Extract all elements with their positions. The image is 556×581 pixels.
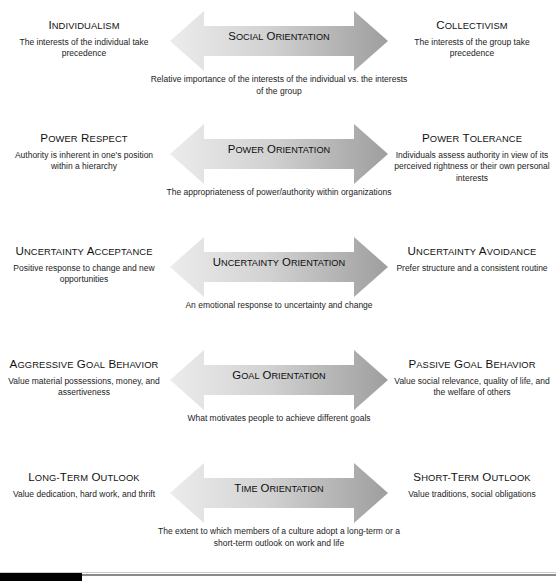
left-pole-description: The interests of the individual take pre…	[0, 37, 168, 60]
dimension-row: AGGRESSIVE GOAL BEHAVIORValue material p…	[0, 339, 556, 452]
left-pole: UNCERTAINTY ACCEPTANCEPositive response …	[0, 244, 168, 286]
right-pole: SHORT-TERM OUTLOOKValue traditions, soci…	[388, 470, 556, 500]
right-pole: COLLECTIVISMThe interests of the group t…	[388, 18, 556, 60]
left-pole-title: POWER RESPECT	[0, 131, 168, 146]
left-pole-title: UNCERTAINTY ACCEPTANCE	[0, 244, 168, 259]
right-pole: PASSIVE GOAL BEHAVIORValue social releva…	[388, 357, 556, 399]
dimension-description: The appropriateness of power/authority w…	[148, 187, 410, 199]
right-pole-description: Individuals assess authority in view of …	[388, 150, 556, 184]
left-pole-title: AGGRESSIVE GOAL BEHAVIOR	[0, 357, 168, 372]
dimension-description: What motivates people to achieve differe…	[148, 413, 410, 425]
left-pole-title: LONG-TERM OUTLOOK	[0, 470, 168, 485]
double-headed-arrow-icon	[168, 232, 390, 302]
dimension-row: LONG-TERM OUTLOOKValue dedication, hard …	[0, 452, 556, 565]
double-headed-arrow-icon	[168, 119, 390, 189]
dimension-description: The extent to which members of a culture…	[148, 526, 410, 549]
right-pole: UNCERTAINTY AVOIDANCEPrefer structure an…	[388, 244, 556, 274]
left-pole-description: Positive response to change and new oppo…	[0, 263, 168, 286]
left-pole: POWER RESPECTAuthority is inherent in on…	[0, 131, 168, 173]
left-pole-title: INDIVIDUALISM	[0, 18, 168, 33]
footer-rule-light	[0, 572, 556, 573]
right-pole-description: Value traditions, social obligations	[388, 489, 556, 500]
footer-black-bar	[0, 573, 82, 581]
left-pole-description: Value dedication, hard work, and thrift	[0, 489, 168, 500]
left-pole: AGGRESSIVE GOAL BEHAVIORValue material p…	[0, 357, 168, 399]
cultural-dimensions-diagram: INDIVIDUALISMThe interests of the indivi…	[0, 0, 556, 581]
right-pole-title: POWER TOLERANCE	[388, 131, 556, 146]
double-headed-arrow-icon	[168, 6, 390, 76]
left-pole: INDIVIDUALISMThe interests of the indivi…	[0, 18, 168, 60]
dimension-description: Relative importance of the interests of …	[148, 74, 410, 97]
right-pole-title: UNCERTAINTY AVOIDANCE	[388, 244, 556, 259]
dimension-row: INDIVIDUALISMThe interests of the indivi…	[0, 0, 556, 113]
footer-rule	[0, 574, 556, 576]
right-pole: POWER TOLERANCEIndividuals assess author…	[388, 131, 556, 184]
right-pole-description: Prefer structure and a consistent routin…	[388, 263, 556, 274]
right-pole-description: Value social relevance, quality of life,…	[388, 376, 556, 399]
left-pole-description: Authority is inherent in one's position …	[0, 150, 168, 173]
right-pole-title: SHORT-TERM OUTLOOK	[388, 470, 556, 485]
right-pole-title: PASSIVE GOAL BEHAVIOR	[388, 357, 556, 372]
double-headed-arrow-icon	[168, 345, 390, 415]
left-pole-description: Value material possessions, money, and a…	[0, 376, 168, 399]
double-headed-arrow-icon	[168, 458, 390, 528]
dimension-description: An emotional response to uncertainty and…	[148, 300, 410, 312]
left-pole: LONG-TERM OUTLOOKValue dedication, hard …	[0, 470, 168, 500]
right-pole-title: COLLECTIVISM	[388, 18, 556, 33]
dimension-row: POWER RESPECTAuthority is inherent in on…	[0, 113, 556, 226]
right-pole-description: The interests of the group take preceden…	[388, 37, 556, 60]
dimension-row: UNCERTAINTY ACCEPTANCEPositive response …	[0, 226, 556, 339]
